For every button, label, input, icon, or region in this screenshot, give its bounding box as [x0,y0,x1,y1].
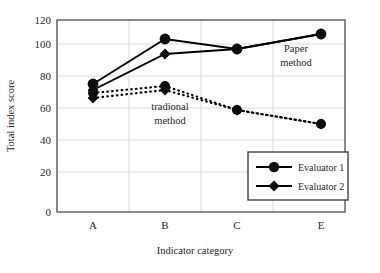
chart-container: 0 20 40 60 80 100 120 A B C E Total inde… [0,0,380,273]
y-tick-label: 40 [40,134,52,146]
circle-marker-icon [269,162,279,172]
y-axis-tick-labels: 0 20 40 60 80 100 120 [35,14,52,218]
y-tick-label: 60 [40,102,52,114]
x-tick-label-e: E [318,219,325,231]
x-axis-title: Indicator category [157,245,234,256]
y-axis-title: Total index score [5,80,16,152]
x-tick-label-b: B [161,219,168,231]
legend-label-evaluator-1: Evaluator 1 [298,162,344,173]
legend-label-evaluator-2: Evaluator 2 [298,181,344,192]
annotation-trad-line-1: tradional [151,101,188,112]
legend-box [248,152,348,200]
x-tick-label-c: C [233,219,240,231]
annotation-trad-line-2: method [154,115,186,126]
y-tick-label: 120 [35,14,52,26]
x-axis-tick-labels: A B C E [89,219,325,231]
data-point [160,34,171,45]
annotation-paper-line-2: method [280,57,312,68]
y-tick-label: 0 [46,206,52,218]
annotation-paper-line-1: Paper [284,43,308,54]
line-chart: 0 20 40 60 80 100 120 A B C E Total inde… [0,0,380,273]
chart-legend[interactable]: Evaluator 1 Evaluator 2 [248,152,348,200]
y-tick-label: 80 [40,70,52,82]
y-tick-label: 20 [40,166,52,178]
x-tick-label-a: A [89,219,97,231]
y-tick-label: 100 [35,38,52,50]
